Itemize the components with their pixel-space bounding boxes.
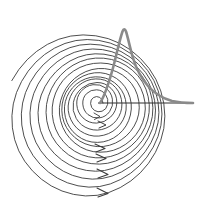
spiral-diagram-svg <box>0 0 199 213</box>
figure-container <box>0 0 199 213</box>
figure-background <box>0 0 199 213</box>
